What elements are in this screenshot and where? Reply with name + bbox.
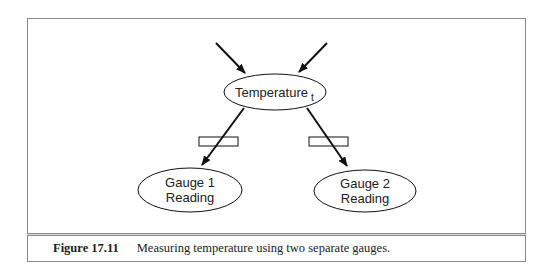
caption-divider (27, 233, 526, 236)
gauge1-label-line2: Reading (166, 190, 214, 205)
gauge1-label-line1: Gauge 1 (165, 175, 215, 190)
gauge1-node: Gauge 1 Reading (138, 168, 242, 212)
gauge2-node: Gauge 2 Reading (314, 170, 416, 212)
incoming-arrow-right (299, 43, 327, 72)
gauge2-label-line1: Gauge 2 (340, 176, 390, 191)
temperature-node: Temperaturet (224, 74, 326, 110)
gauge2-label-line2: Reading (341, 191, 389, 206)
figure-number: Figure 17.11 (53, 241, 119, 255)
figure-caption: Figure 17.11Measuring temperature using … (53, 241, 390, 259)
incoming-arrow-left (216, 43, 245, 73)
caption-text: Measuring temperature using two separate… (137, 241, 390, 255)
